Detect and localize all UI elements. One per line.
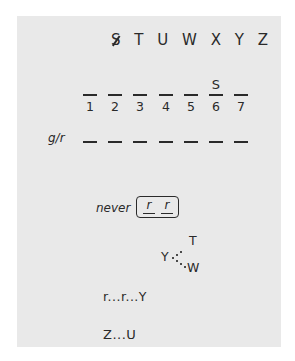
gr-dash (184, 141, 198, 143)
pool-letter: U (157, 31, 172, 49)
slot-number: 2 (108, 99, 122, 114)
slot-number: 4 (159, 99, 173, 114)
gr-row-label: g/r (48, 131, 65, 145)
letter-pool: S T U W X Y Z (111, 31, 272, 49)
slot-dash (159, 94, 173, 96)
dotted-connector (176, 260, 178, 262)
gr-dash (159, 141, 173, 143)
slot-number: 1 (83, 99, 97, 114)
slot-dash (133, 94, 147, 96)
boxed-letter: r (147, 198, 152, 212)
slot-value: S (209, 77, 223, 92)
dotted-connector (176, 254, 178, 256)
gr-dash (83, 141, 97, 143)
diagram-center-letter: Y (161, 249, 169, 264)
boxed-letter: r (165, 198, 170, 212)
boxed-slot: r (143, 198, 155, 212)
slot-dash (108, 94, 122, 96)
boxed-slot: r (161, 198, 173, 212)
sequence-clue-1: r...r...Y (103, 289, 147, 304)
gr-dash (108, 141, 122, 143)
pool-letter: X (211, 31, 226, 49)
never-rule-box: r r (136, 196, 179, 218)
dotted-connector (184, 266, 186, 268)
dotted-connector (180, 263, 182, 265)
slot-number: 6 (209, 99, 223, 114)
pool-letter: W (182, 31, 201, 49)
crossed-out-letter: S (111, 31, 125, 49)
dotted-connector (180, 251, 182, 253)
diagram-top-letter: T (189, 233, 197, 248)
slot-dash (234, 94, 248, 96)
gr-dash (133, 141, 147, 143)
slot-dash (184, 94, 198, 96)
sequence-clue-2: Z...U (103, 327, 136, 342)
pool-letter: Y (235, 31, 249, 49)
slot-dash (209, 94, 223, 96)
never-label: never (96, 201, 130, 215)
puzzle-panel: S T U W X Y Z 1 2 3 4 5 (17, 16, 281, 347)
slot-number: 5 (184, 99, 198, 114)
dotted-connector (172, 257, 174, 259)
position-slots: 1 2 3 4 5 S 6 7 (83, 74, 283, 114)
slot-number: 3 (133, 99, 147, 114)
slot-number: 7 (234, 99, 248, 114)
pool-letter: T (134, 31, 148, 49)
diagram-bottom-letter: W (187, 260, 199, 275)
gr-dash (234, 141, 248, 143)
pool-letter: Z (258, 31, 273, 49)
gr-dash (209, 141, 223, 143)
boxed-underline (161, 213, 173, 214)
boxed-underline (143, 213, 155, 214)
slot-dash (83, 94, 97, 96)
